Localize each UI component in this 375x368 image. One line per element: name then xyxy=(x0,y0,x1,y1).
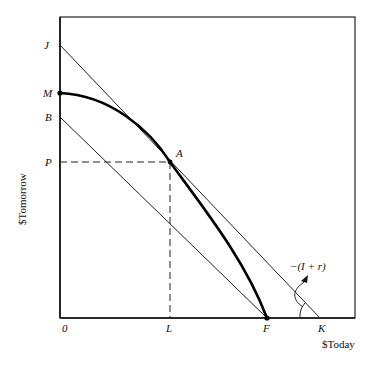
label-j: J xyxy=(44,39,50,51)
label-m: M xyxy=(42,87,53,99)
x-axis-label: $Today xyxy=(322,338,355,350)
point-m xyxy=(57,90,62,95)
label-a: A xyxy=(175,147,183,159)
line-jk xyxy=(60,45,320,318)
line-bf xyxy=(60,117,267,318)
diagram: J M B P A 0 L F K −(I + r) $Today $Tomor… xyxy=(0,0,375,368)
label-p: P xyxy=(44,156,52,168)
y-axis-label: $Tomorrow xyxy=(16,173,28,225)
label-b: B xyxy=(45,111,52,123)
arrow-head-icon xyxy=(301,275,308,283)
curve-mf xyxy=(60,93,267,318)
slope-arrow xyxy=(295,278,306,307)
point-a xyxy=(168,160,173,165)
label-f: F xyxy=(262,322,270,334)
label-origin: 0 xyxy=(62,322,68,334)
point-f xyxy=(264,315,269,320)
label-slope: −(I + r) xyxy=(290,260,326,273)
plot-frame xyxy=(60,17,355,318)
label-l: L xyxy=(165,322,172,334)
label-k: K xyxy=(317,322,326,334)
